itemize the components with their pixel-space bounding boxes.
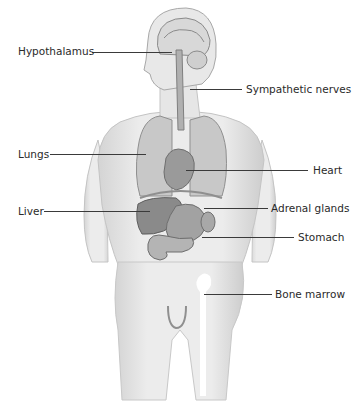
label-bone-marrow: Bone marrow bbox=[275, 289, 345, 300]
label-adrenal-glands: Adrenal glands bbox=[271, 203, 349, 214]
anatomy-diagram: Hypothalamus Sympathetic nerves Lungs He… bbox=[0, 0, 362, 413]
hypothalamus-leader-line bbox=[92, 52, 172, 53]
sympathetic-nerves-leader-line bbox=[190, 89, 242, 90]
lungs-leader-line bbox=[50, 154, 146, 155]
liver-leader-line bbox=[44, 211, 150, 212]
heart-leader-line bbox=[186, 170, 308, 171]
label-stomach: Stomach bbox=[298, 232, 344, 243]
label-lungs: Lungs bbox=[18, 149, 49, 160]
bone-marrow-leader-line bbox=[204, 294, 272, 295]
stomach-leader-line bbox=[202, 237, 294, 238]
adrenal-glands-leader-line bbox=[204, 208, 268, 209]
label-hypothalamus: Hypothalamus bbox=[18, 46, 94, 57]
label-heart: Heart bbox=[313, 165, 342, 176]
label-liver: Liver bbox=[18, 206, 44, 217]
label-sympathetic-nerves: Sympathetic nerves bbox=[246, 84, 351, 95]
